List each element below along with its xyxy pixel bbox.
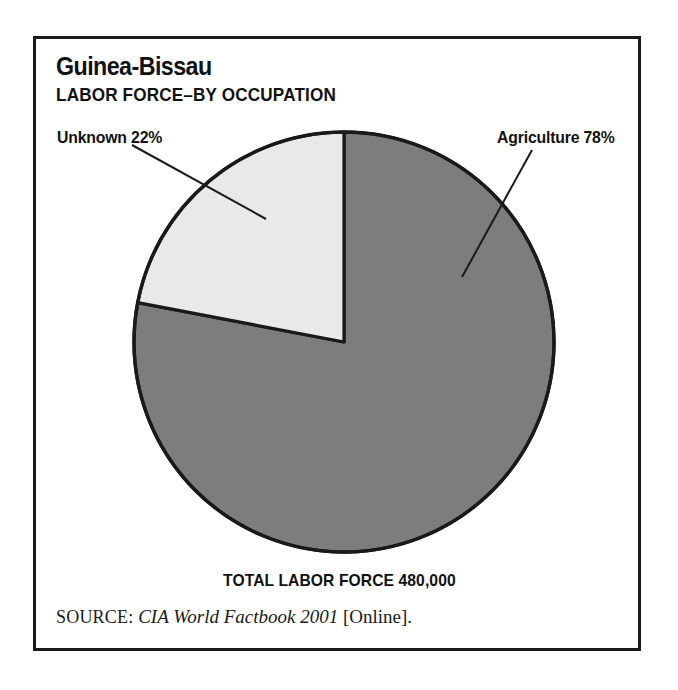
source-suffix: [Online]. bbox=[343, 606, 412, 627]
total-labor-force-label: TOTAL LABOR FORCE 480,000 bbox=[0, 571, 678, 591]
slice-label-agriculture: Agriculture 78% bbox=[497, 128, 615, 148]
source-title: CIA World Factbook 2001 bbox=[138, 606, 338, 627]
source-prefix: SOURCE: bbox=[56, 607, 133, 627]
pie-chart-figure: Guinea-Bissau LABOR FORCE–BY OCCUPATION … bbox=[0, 0, 678, 690]
source-line: SOURCE: CIA World Factbook 2001 [Online]… bbox=[56, 606, 412, 628]
slice-label-unknown: Unknown 22% bbox=[57, 128, 162, 148]
total-labor-force-text: TOTAL LABOR FORCE 480,000 bbox=[223, 571, 456, 591]
